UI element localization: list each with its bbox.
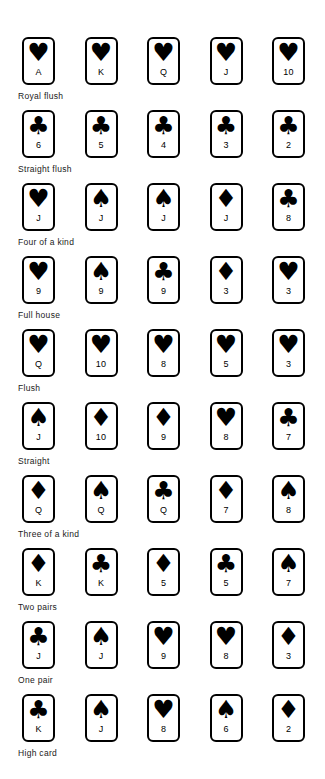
hand-name-label: Two pairs [18, 602, 57, 612]
card-strip: ♥A♥K♥Q♥J♥10 [22, 37, 312, 87]
spades-suit-icon: ♠ [152, 186, 174, 213]
hand-name-label: Three of a kind [18, 529, 79, 539]
diamonds-suit-icon: ♦ [277, 624, 299, 651]
clubs-suit-icon: ♣ [90, 551, 112, 578]
card-rank: J [99, 725, 104, 734]
card-rank: 7 [286, 433, 291, 442]
hand-name-label: Straight [18, 456, 50, 466]
card-rank: 3 [286, 360, 291, 369]
clubs-suit-icon: ♣ [215, 551, 237, 578]
card-rank: 7 [286, 579, 291, 588]
playing-card: ♥Q [147, 37, 180, 85]
card-rank: K [35, 579, 41, 588]
clubs-suit-icon: ♣ [27, 697, 49, 724]
card-rank: 6 [36, 141, 41, 150]
playing-card: ♠J [85, 694, 118, 742]
playing-card: ♦10 [85, 402, 118, 450]
card-rank: J [36, 214, 41, 223]
card-rank: 4 [161, 141, 166, 150]
card-strip: ♥9♠9♣9♦3♥3 [22, 256, 312, 306]
card-rank: A [35, 68, 41, 77]
playing-card: ♦Q [22, 475, 55, 523]
spades-suit-icon: ♠ [90, 478, 112, 505]
clubs-suit-icon: ♣ [152, 113, 174, 140]
playing-card: ♥A [22, 37, 55, 85]
hand-row: ♥Q♥10♥8♥5♥3Flush [0, 329, 325, 402]
clubs-suit-icon: ♣ [215, 113, 237, 140]
playing-card: ♥10 [272, 37, 305, 85]
hearts-suit-icon: ♥ [277, 40, 299, 67]
card-strip: ♣6♣5♣4♣3♣2 [22, 110, 312, 160]
poker-hand-ranking-chart: ♥A♥K♥Q♥J♥10Royal flush♣6♣5♣4♣3♣2Straight… [0, 0, 325, 779]
spades-suit-icon: ♠ [90, 697, 112, 724]
card-rank: 10 [96, 433, 106, 442]
card-rank: 8 [286, 506, 291, 515]
playing-card: ♥8 [210, 402, 243, 450]
card-strip: ♥Q♥10♥8♥5♥3 [22, 329, 312, 379]
hand-name-label: Straight flush [18, 164, 72, 174]
card-strip: ♠J♦10♦9♥8♣7 [22, 402, 312, 452]
card-rank: K [98, 579, 104, 588]
playing-card: ♦J [210, 183, 243, 231]
card-rank: Q [97, 506, 104, 515]
playing-card: ♥K [85, 37, 118, 85]
card-rank: 10 [96, 360, 106, 369]
playing-card: ♣6 [22, 110, 55, 158]
clubs-suit-icon: ♣ [152, 478, 174, 505]
hearts-suit-icon: ♥ [27, 259, 49, 286]
playing-card: ♦3 [272, 621, 305, 669]
playing-card: ♣J [22, 621, 55, 669]
playing-card: ♦K [22, 548, 55, 596]
playing-card: ♥J [22, 183, 55, 231]
spades-suit-icon: ♠ [277, 551, 299, 578]
card-strip: ♣J♠J♥9♥8♦3 [22, 621, 312, 671]
card-rank: 5 [223, 579, 228, 588]
playing-card: ♥5 [210, 329, 243, 377]
card-rank: J [36, 433, 41, 442]
playing-card: ♣4 [147, 110, 180, 158]
card-rank: K [98, 68, 104, 77]
card-strip: ♥J♠J♠J♦J♣8 [22, 183, 312, 233]
card-rank: 5 [98, 141, 103, 150]
card-rank: J [224, 214, 229, 223]
diamonds-suit-icon: ♦ [277, 697, 299, 724]
clubs-suit-icon: ♣ [27, 113, 49, 140]
hearts-suit-icon: ♥ [27, 332, 49, 359]
playing-card: ♠J [85, 183, 118, 231]
card-rank: 3 [223, 287, 228, 296]
card-rank: 9 [161, 287, 166, 296]
hearts-suit-icon: ♥ [152, 40, 174, 67]
hand-row: ♣J♠J♥9♥8♦3One pair [0, 621, 325, 694]
playing-card: ♠6 [210, 694, 243, 742]
clubs-suit-icon: ♣ [27, 624, 49, 651]
spades-suit-icon: ♠ [277, 478, 299, 505]
playing-card: ♠8 [272, 475, 305, 523]
card-rank: 5 [161, 579, 166, 588]
hand-row: ♥A♥K♥Q♥J♥10Royal flush [0, 37, 325, 110]
hand-row: ♥9♠9♣9♦3♥3Full house [0, 256, 325, 329]
playing-card: ♥3 [272, 256, 305, 304]
playing-card: ♦5 [147, 548, 180, 596]
playing-card: ♣9 [147, 256, 180, 304]
hand-name-label: High card [18, 748, 57, 758]
card-rank: 8 [223, 652, 228, 661]
card-rank: 2 [286, 141, 291, 150]
card-rank: 9 [98, 287, 103, 296]
card-rank: 8 [161, 360, 166, 369]
playing-card: ♥10 [85, 329, 118, 377]
playing-card: ♦3 [210, 256, 243, 304]
spades-suit-icon: ♠ [27, 405, 49, 432]
hearts-suit-icon: ♥ [90, 40, 112, 67]
hand-name-label: One pair [18, 675, 53, 685]
playing-card: ♣K [22, 694, 55, 742]
card-rank: 9 [161, 433, 166, 442]
spades-suit-icon: ♠ [90, 186, 112, 213]
hand-name-label: Royal flush [18, 91, 63, 101]
playing-card: ♥8 [147, 329, 180, 377]
card-rank: 3 [286, 652, 291, 661]
playing-card: ♦9 [147, 402, 180, 450]
card-rank: 9 [161, 652, 166, 661]
card-rank: 7 [223, 506, 228, 515]
card-rank: 8 [286, 214, 291, 223]
hand-row: ♦Q♠Q♣Q♦7♠8Three of a kind [0, 475, 325, 548]
